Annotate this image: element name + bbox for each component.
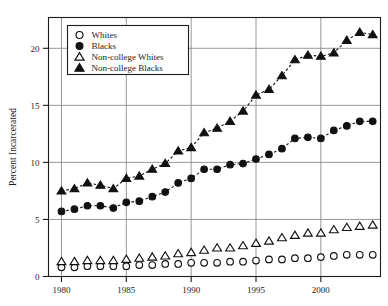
marker-filled-circle (71, 206, 78, 213)
marker-filled-triangle (70, 184, 79, 191)
marker-filled-circle (84, 202, 91, 209)
marker-filled-triangle (148, 165, 157, 172)
marker-open-triangle (278, 234, 287, 241)
marker-filled-circle (253, 156, 260, 163)
marker-filled-circle (76, 43, 83, 50)
marker-filled-circle (356, 118, 363, 125)
marker-filled-triangle (252, 91, 261, 98)
marker-open-circle (188, 260, 195, 267)
marker-open-triangle (252, 239, 261, 246)
marker-filled-triangle (187, 143, 196, 150)
marker-filled-circle (318, 135, 325, 142)
marker-open-circle (227, 258, 234, 265)
marker-open-circle (356, 252, 363, 259)
marker-filled-circle (214, 166, 221, 173)
marker-open-circle (175, 261, 182, 268)
marker-filled-triangle (174, 147, 183, 154)
marker-filled-circle (343, 123, 350, 130)
marker-filled-circle (292, 135, 299, 142)
marker-filled-circle (331, 127, 338, 134)
legend-item-label: Non-college Whites (92, 52, 165, 62)
marker-open-circle (253, 257, 260, 264)
marker-filled-circle (58, 208, 65, 215)
marker-filled-circle (279, 145, 286, 152)
marker-open-triangle (226, 244, 235, 251)
marker-open-triangle (316, 229, 325, 236)
marker-open-triangle (135, 254, 144, 261)
marker-filled-circle (266, 151, 273, 158)
marker-filled-circle (149, 193, 156, 200)
x-tick-label: 1980 (52, 285, 71, 295)
legend-item-label: Blacks (92, 41, 117, 51)
marker-filled-circle (97, 202, 104, 209)
marker-open-circle (123, 263, 130, 270)
marker-filled-triangle (200, 129, 209, 136)
chart-legend: WhitesBlacksNon-college WhitesNon-colleg… (68, 26, 189, 75)
marker-filled-triangle (342, 36, 351, 43)
x-tick-label: 2000 (312, 285, 331, 295)
marker-open-triangle (213, 244, 222, 251)
marker-open-triangle (355, 222, 364, 229)
marker-open-circle (136, 262, 143, 269)
marker-open-circle (266, 256, 273, 263)
marker-open-triangle (83, 256, 92, 263)
legend-item-label: Non-college Blacks (92, 63, 164, 73)
marker-open-triangle (329, 226, 338, 233)
y-tick-label: 5 (35, 215, 40, 225)
marker-filled-circle (305, 134, 312, 141)
marker-open-circle (369, 252, 376, 259)
chart-figure: 05101520 19801985199019952000 Percent In… (0, 0, 388, 306)
y-tick-label: 20 (31, 44, 41, 54)
marker-filled-circle (175, 180, 182, 187)
x-tick-label: 1995 (247, 285, 266, 295)
marker-filled-triangle (265, 85, 274, 92)
marker-open-triangle (161, 252, 170, 259)
marker-open-triangle (239, 241, 248, 248)
x-tick-label: 1990 (182, 285, 201, 295)
marker-filled-circle (123, 199, 130, 206)
marker-filled-triangle (96, 181, 105, 188)
marker-open-circle (201, 260, 208, 267)
marker-filled-triangle (303, 51, 312, 58)
marker-filled-circle (110, 205, 117, 212)
marker-open-triangle (148, 253, 157, 260)
marker-open-triangle (265, 237, 274, 244)
marker-open-circle (162, 261, 169, 268)
marker-filled-circle (369, 118, 376, 125)
y-tick-label: 15 (31, 101, 41, 111)
y-tick-label: 0 (35, 272, 40, 282)
marker-filled-circle (201, 166, 208, 173)
marker-open-triangle (122, 255, 131, 262)
marker-open-circle (318, 254, 325, 261)
marker-open-circle (76, 32, 83, 39)
marker-filled-triangle (135, 172, 144, 179)
marker-filled-triangle (226, 117, 235, 124)
marker-filled-circle (227, 161, 234, 168)
marker-open-circle (305, 255, 312, 262)
marker-filled-triangle (57, 187, 66, 194)
series-blacks (58, 118, 376, 215)
marker-filled-triangle (291, 56, 300, 63)
marker-filled-triangle (83, 179, 92, 186)
series-non-college-whites (57, 221, 377, 265)
marker-filled-triangle (213, 124, 222, 131)
y-tick-label: 10 (31, 158, 41, 168)
marker-filled-circle (240, 160, 247, 167)
x-axis-tick-labels: 19801985199019952000 (52, 285, 330, 295)
marker-open-circle (343, 252, 350, 259)
marker-filled-circle (188, 175, 195, 182)
incarceration-line-chart: 05101520 19801985199019952000 Percent In… (0, 0, 388, 306)
legend-item-label: Whites (92, 30, 118, 40)
y-axis-tick-labels: 05101520 (31, 44, 41, 282)
marker-open-circle (214, 260, 221, 267)
marker-open-triangle (368, 221, 377, 228)
marker-open-circle (279, 256, 286, 263)
marker-open-triangle (57, 257, 66, 264)
marker-open-circle (331, 253, 338, 260)
marker-open-triangle (96, 256, 105, 263)
marker-open-triangle (303, 229, 312, 236)
marker-open-triangle (291, 231, 300, 238)
y-axis-title: Percent Incarcerated (8, 108, 18, 186)
marker-filled-circle (162, 189, 169, 196)
marker-filled-triangle (355, 28, 364, 35)
